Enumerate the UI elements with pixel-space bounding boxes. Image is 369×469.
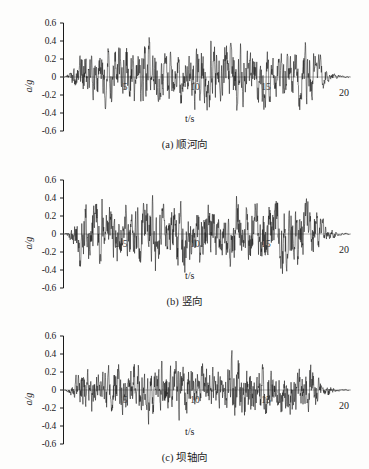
y-tick-label: 0.6 [30, 175, 56, 185]
caption-index: (a) [162, 139, 174, 150]
y-tick-label: -0.2 [30, 403, 56, 413]
figure-seismic-time-histories: 0.6 0.4 0.2 0 -0.2 -0.4 -0.6 5 10 15 20 … [0, 0, 369, 469]
x-tick-label: 10 [188, 82, 202, 92]
x-axis-label: t/s [185, 426, 194, 437]
y-tick-label: 0.4 [30, 193, 56, 203]
x-axis-end-label: 20 [339, 244, 349, 255]
y-tick-label: 0.6 [30, 331, 56, 341]
x-tick-label: 15 [259, 395, 273, 405]
y-tick-label: 0 [30, 385, 56, 395]
y-tick-label: -0.4 [30, 265, 56, 275]
y-tick-label: 0.4 [30, 36, 56, 46]
y-axis-label: a/g [23, 216, 34, 250]
y-tick-label: -0.6 [30, 126, 56, 136]
panel-caption-c: (c) 坝轴向 [0, 452, 369, 464]
x-tick-label: 15 [259, 82, 273, 92]
y-tick-label: -0.6 [30, 439, 56, 449]
chart-panel-c: 0.6 0.4 0.2 0 -0.2 -0.4 -0.6 5 10 15 20 … [0, 313, 369, 469]
x-tick-label: 10 [188, 395, 202, 405]
chart-panel-a: 0.6 0.4 0.2 0 -0.2 -0.4 -0.6 5 10 15 20 … [0, 0, 369, 156]
y-tick-label: -0.4 [30, 108, 56, 118]
y-tick-label: 0.6 [30, 18, 56, 28]
x-axis-label: t/s [185, 270, 194, 281]
y-axis-label: a/g [23, 59, 34, 93]
x-tick-label: 5 [118, 82, 132, 92]
y-tick-label: -0.4 [30, 421, 56, 431]
y-tick-label: 0.2 [30, 54, 56, 64]
y-tick-label: -0.2 [30, 247, 56, 257]
x-tick-label: 10 [188, 239, 202, 249]
y-tick-label: 0.2 [30, 211, 56, 221]
y-tick-label: 0 [30, 229, 56, 239]
x-axis-end-label: 20 [339, 87, 349, 98]
x-tick-label: 15 [259, 239, 273, 249]
y-tick-label: 0.2 [30, 367, 56, 377]
caption-text: 坝轴向 [176, 452, 207, 463]
panel-caption-b: (b) 竖向 [0, 296, 369, 308]
x-axis-label: t/s [185, 113, 194, 124]
x-tick-label: 5 [118, 395, 132, 405]
panel-caption-a: (a) 顺河向 [0, 139, 369, 151]
y-tick-label: -0.2 [30, 90, 56, 100]
caption-text: 竖向 [182, 296, 203, 307]
y-tick-label: 0 [30, 72, 56, 82]
x-tick-label: 5 [118, 239, 132, 249]
caption-index: (c) [162, 452, 174, 463]
caption-text: 顺河向 [176, 139, 207, 150]
y-axis-label: a/g [23, 372, 34, 406]
y-tick-label: -0.6 [30, 283, 56, 293]
caption-index: (b) [167, 296, 179, 307]
x-axis-end-label: 20 [339, 400, 349, 411]
chart-panel-b: 0.6 0.4 0.2 0 -0.2 -0.4 -0.6 5 10 15 20 … [0, 157, 369, 313]
y-tick-label: 0.4 [30, 349, 56, 359]
